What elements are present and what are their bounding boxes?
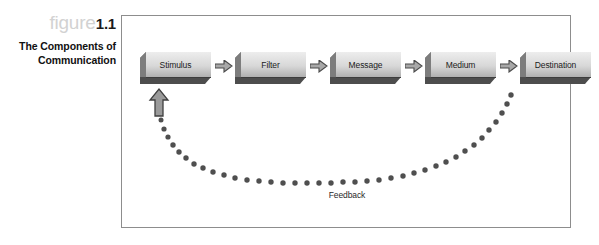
figure-word-label: figure <box>49 12 95 33</box>
right-block-arrow-icon <box>215 60 233 73</box>
flow-node-label: Medium <box>425 52 496 77</box>
feedback-label: Feedback <box>307 190 387 200</box>
flow-node-label: Message <box>330 52 401 77</box>
diagram-frame: Stimulus <box>121 15 571 228</box>
figure-title-line-1: The Components of <box>0 40 116 54</box>
flow-node-filter[interactable]: Filter <box>235 52 306 85</box>
flow-node-label: Destination <box>520 52 591 77</box>
figure-number-label: 1.1 <box>96 15 116 32</box>
flow-node-message[interactable]: Message <box>330 52 401 85</box>
figure-title-line-2: Communication <box>0 54 116 68</box>
right-block-arrow-icon <box>405 60 423 73</box>
flow-node-label: Stimulus <box>140 52 211 77</box>
flow-node-destination[interactable]: Destination <box>520 52 591 85</box>
figure-title: The Components of Communication <box>0 40 116 67</box>
flow-node-label: Filter <box>235 52 306 77</box>
flow-node-medium[interactable]: Medium <box>425 52 496 85</box>
right-block-arrow-icon <box>500 60 518 73</box>
right-block-arrow-icon <box>310 60 328 73</box>
figure-caption-block: figure1.1 The Components of Communicatio… <box>0 12 116 67</box>
flow-node-stimulus[interactable]: Stimulus <box>140 52 211 85</box>
figure-number-line: figure1.1 <box>0 12 116 35</box>
